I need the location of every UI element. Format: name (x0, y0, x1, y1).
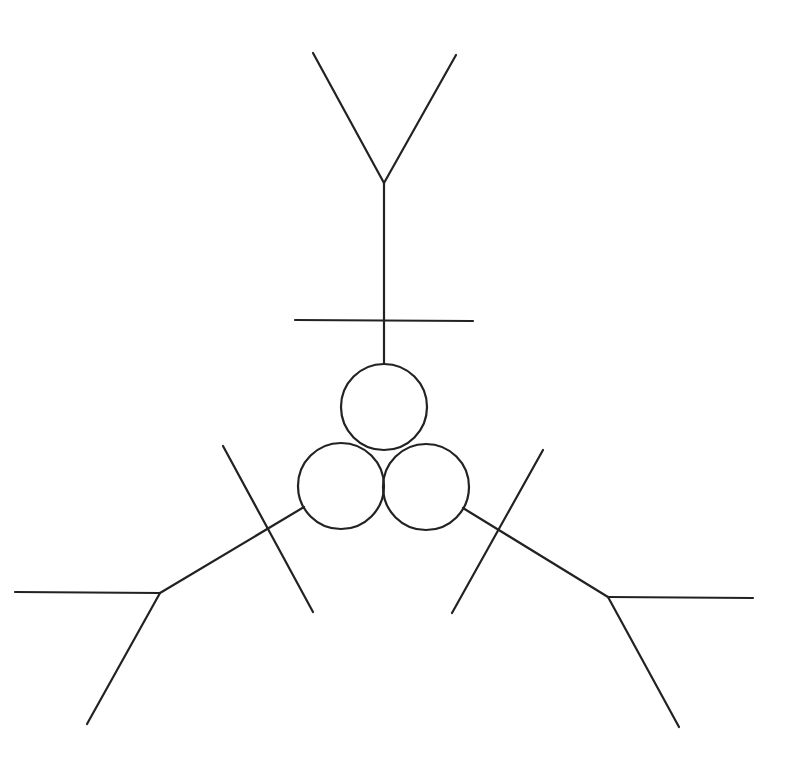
top-crossbar-line (295, 320, 473, 321)
left-fork-horizontal-line (15, 592, 160, 593)
left-crossbar-line (223, 446, 313, 612)
left-fork-down-line (87, 593, 160, 724)
right-branch (452, 450, 753, 727)
right-fork-down-line (608, 597, 679, 727)
diagram-canvas (0, 0, 786, 769)
top-fork-left-line (313, 53, 384, 183)
left-branch (15, 446, 313, 724)
left-stem-line (160, 507, 304, 593)
right-coil-circle (383, 444, 469, 530)
three-coil-schematic (0, 0, 786, 769)
top-branch (295, 53, 473, 364)
top-coil-circle (341, 364, 427, 450)
right-fork-horizontal-line (608, 597, 753, 598)
left-coil-circle (298, 443, 384, 529)
top-fork-right-line (384, 55, 456, 183)
right-crossbar-line (452, 450, 543, 613)
coil-group (298, 364, 469, 530)
